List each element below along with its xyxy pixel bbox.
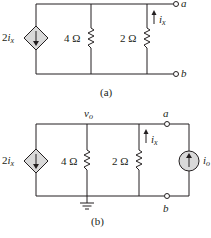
dependent-source-label: 2ix: [2, 155, 14, 168]
resistor-4ohm-label: 4 Ω: [61, 156, 77, 167]
terminal-a-label: a: [181, 0, 187, 9]
terminal-a-icon: [174, 2, 179, 7]
current-arrow-icon: [152, 10, 157, 24]
resistor-4ohm-label: 4 Ω: [64, 33, 80, 44]
terminal-b-label: b: [163, 203, 169, 214]
resistor-2ohm-label: 2 Ω: [112, 156, 128, 167]
terminal-a-icon: [165, 122, 170, 127]
circuit-diagram: [0, 0, 211, 238]
dependent-current-source-icon: [24, 26, 48, 50]
terminal-a-label: a: [163, 108, 169, 119]
terminal-b-icon: [165, 194, 170, 199]
dependent-current-source-icon: [24, 149, 48, 173]
current-label: ix: [151, 134, 158, 147]
resistor-2ohm-label: 2 Ω: [120, 33, 136, 44]
node-voltage-label: vo: [84, 108, 93, 121]
test-source-label: io: [203, 155, 210, 168]
caption-b: (b): [91, 216, 104, 227]
independent-current-source-icon: [179, 151, 199, 171]
current-arrow-icon: [144, 129, 149, 143]
resistor-2ohm-icon: [136, 150, 142, 170]
resistor-4ohm-icon: [84, 150, 90, 170]
terminal-b-icon: [174, 72, 179, 77]
current-label: ix: [159, 14, 166, 27]
terminal-b-label: b: [181, 68, 187, 79]
caption-a: (a): [100, 87, 112, 98]
ground-icon: [80, 203, 94, 209]
dependent-source-label: 2ix: [2, 32, 14, 45]
resistor-4ohm-icon: [88, 28, 94, 48]
resistor-2ohm-icon: [144, 28, 150, 48]
